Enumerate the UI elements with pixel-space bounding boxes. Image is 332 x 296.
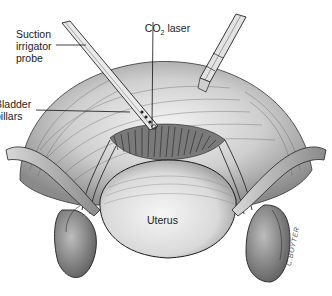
co2-suffix: laser xyxy=(165,22,191,34)
uterus xyxy=(100,160,236,258)
co2-prefix: CO xyxy=(145,22,161,34)
label-suction-irrigator-probe: Suction irrigator probe xyxy=(16,28,52,64)
label-uterus: Uterus xyxy=(147,214,178,226)
label-co2-laser: CO2 laser xyxy=(139,10,190,39)
label-bladder-pillars: Bladder pillars xyxy=(0,98,31,122)
